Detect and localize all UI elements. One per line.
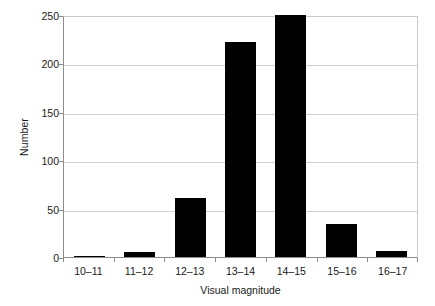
y-axis-tick-label: 200 xyxy=(25,59,59,69)
y-axis-tick-label: 0 xyxy=(25,253,59,263)
x-axis-tick-cell xyxy=(164,258,215,263)
bar[interactable] xyxy=(74,256,105,257)
x-axis-tick-label: 12–13 xyxy=(164,265,215,279)
x-axis-tick-mark xyxy=(367,258,368,262)
x-axis-tick-mark xyxy=(63,258,64,262)
x-axis-tick-cell xyxy=(215,258,266,263)
x-axis-tick-mark xyxy=(164,258,165,262)
x-axis-tick-mark-end xyxy=(417,258,418,262)
bar[interactable] xyxy=(175,198,206,257)
bar-slot xyxy=(114,17,164,257)
x-axis-tick-marks xyxy=(63,258,418,263)
y-axis-tick-label: 150 xyxy=(25,108,59,118)
bar-slot xyxy=(215,17,265,257)
x-axis-tick-mark xyxy=(317,258,318,262)
bar-slot xyxy=(316,17,366,257)
x-axis-tick-labels: 10–1111–1212–1313–1414–1515–1616–17 xyxy=(63,265,418,279)
x-axis-tick-cell xyxy=(317,258,368,263)
x-axis-tick-label: 14–15 xyxy=(266,265,317,279)
x-axis-tick-label: 13–14 xyxy=(215,265,266,279)
bar-slot xyxy=(165,17,215,257)
bar-series xyxy=(64,17,417,257)
x-axis-tick-cell xyxy=(63,258,114,263)
bar[interactable] xyxy=(326,224,357,257)
x-axis-tick-mark xyxy=(114,258,115,262)
y-axis-tick-label: 250 xyxy=(25,11,59,21)
x-axis-tick-label: 15–16 xyxy=(317,265,368,279)
bar-slot xyxy=(367,17,417,257)
bar-slot xyxy=(64,17,114,257)
x-axis-tick-label: 11–12 xyxy=(114,265,165,279)
x-axis-tick-label: 16–17 xyxy=(367,265,418,279)
y-axis-tick-labels: 050100150200250 xyxy=(20,16,59,258)
x-axis-tick-cell xyxy=(367,258,418,263)
bar[interactable] xyxy=(376,251,407,257)
y-axis-tick-label: 100 xyxy=(25,156,59,166)
x-axis-tick-mark xyxy=(266,258,267,262)
x-axis-title: Visual magnitude xyxy=(63,284,418,297)
y-axis-tick-label: 50 xyxy=(25,205,59,215)
x-axis-tick-label: 10–11 xyxy=(63,265,114,279)
bar[interactable] xyxy=(275,15,306,257)
bar[interactable] xyxy=(124,252,155,257)
plot-area xyxy=(63,16,418,258)
histogram-figure: Number 050100150200250 10–1111–1212–1313… xyxy=(0,0,435,306)
x-axis-tick-cell xyxy=(114,258,165,263)
x-axis-tick-mark xyxy=(215,258,216,262)
bar-slot xyxy=(266,17,316,257)
x-axis-tick-cell xyxy=(266,258,317,263)
bar[interactable] xyxy=(225,42,256,257)
